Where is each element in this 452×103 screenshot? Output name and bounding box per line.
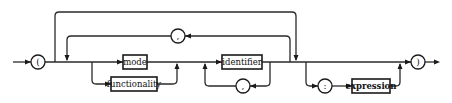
identifier-label: identifier [222, 57, 262, 67]
arrow-icon [175, 63, 180, 69]
arrow-icon [250, 84, 256, 89]
nonterminal-expression: expression [346, 79, 397, 93]
arrow-icon [216, 60, 222, 65]
arrow-icon [25, 60, 31, 65]
connector-lines [13, 12, 436, 86]
terminal-colon: : [318, 79, 332, 93]
terminal-open-paren: ( [31, 55, 45, 69]
syntax-diagram: ( , , : ) mode functionality identifier … [0, 0, 452, 103]
arrow-icon [294, 55, 299, 61]
close-paren-symbol: ) [416, 57, 420, 67]
mode-label: mode [123, 57, 147, 67]
colon-symbol: : [323, 81, 326, 91]
arrow-icon [312, 84, 318, 89]
terminal-close-paren: ) [411, 55, 425, 69]
terminal-comma-inner: , [236, 79, 250, 93]
expression-label: expression [346, 81, 397, 91]
arrow-icon [405, 60, 411, 65]
nonterminal-functionality: functionality [107, 77, 162, 91]
functionality-label: functionality [107, 79, 162, 89]
arrow-icon [434, 60, 440, 65]
arrow-icon [185, 34, 191, 39]
nonterminal-identifier: identifier [222, 55, 263, 69]
arrow-icon [203, 63, 208, 69]
arrow-icon [117, 60, 123, 65]
arrow-icon [65, 55, 70, 61]
open-paren-symbol: ( [36, 57, 40, 67]
nonterminal-mode: mode [123, 55, 147, 69]
arrow-icon [398, 63, 403, 69]
terminal-comma-outer: , [171, 29, 185, 43]
comma-symbol: , [177, 31, 180, 41]
comma-symbol: , [242, 81, 245, 91]
